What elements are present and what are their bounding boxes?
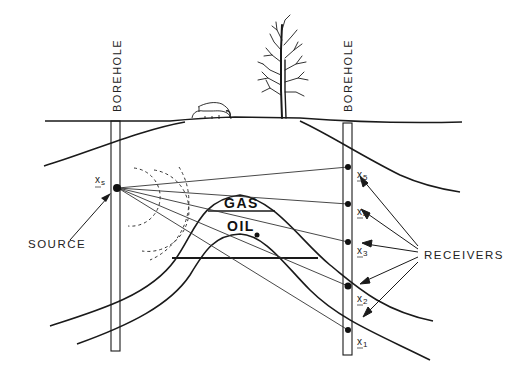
oil-label: OIL [227, 218, 255, 234]
source-label: SOURCE [28, 238, 86, 250]
receiver-x1 [345, 327, 351, 333]
tree-icon [258, 15, 308, 118]
receiver-points [345, 164, 352, 333]
source-arrowhead-icon [101, 193, 111, 202]
cattle-icon [192, 103, 231, 119]
source-symbol: xs [95, 174, 105, 187]
svg-text:x3: x3 [357, 245, 368, 258]
right-borehole-label: BOREHOLE [342, 39, 354, 112]
svg-text:x5: x5 [357, 169, 368, 182]
left-borehole-label: BOREHOLE [111, 39, 123, 112]
gas-label: GAS [224, 195, 259, 211]
receiver-labels: x5 x4 x3 x2 x1 [357, 169, 368, 349]
receiver-arrows [360, 176, 418, 317]
source-arrow [70, 197, 108, 240]
receiver-x4 [345, 201, 351, 207]
svg-text:x4: x4 [357, 206, 368, 219]
receiver-x3 [345, 239, 351, 245]
svg-text:x1: x1 [357, 336, 368, 349]
shallow-layer-boundary [44, 121, 460, 192]
reflection-point [255, 233, 260, 238]
receivers-label: RECEIVERS [424, 249, 504, 261]
svg-text:x2: x2 [357, 293, 368, 306]
left-borehole [111, 121, 120, 351]
anticline-outer-boundary [50, 195, 433, 326]
crosswell-seismic-diagram: BOREHOLE BOREHOLE GAS OIL SOURCE RECEIVE… [0, 0, 511, 383]
ground-surface-line [45, 117, 462, 123]
source-point [113, 184, 121, 192]
receiver-x5 [345, 164, 351, 170]
receiver-x2 [345, 283, 352, 290]
